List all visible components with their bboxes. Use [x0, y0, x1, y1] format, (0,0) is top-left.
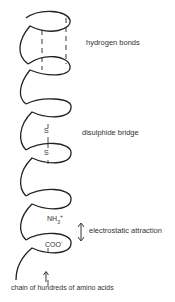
amine-group: NH3+ — [47, 213, 63, 225]
hydrogen-bonds-label: hydrogen bonds — [86, 38, 140, 47]
amine-text: NH — [47, 215, 57, 222]
amine-charge: + — [60, 213, 63, 219]
sulfur-bottom: S — [44, 149, 49, 156]
electrostatic-attraction-label: electrostatic attraction — [89, 226, 162, 235]
carboxyl-charge: - — [61, 239, 63, 245]
amine-subscript: 3 — [57, 219, 60, 225]
hydrogen-bond-lines — [42, 18, 66, 70]
carboxyl-text: COO — [45, 241, 61, 248]
carboxyl-group: COO- — [45, 239, 63, 248]
disulphide-bridge-label: disulphide bridge — [82, 128, 139, 137]
chain-label: chain of hundreds of amino acids — [11, 284, 114, 291]
double-arrow-icon — [78, 223, 84, 241]
sulfur-top: S — [44, 127, 49, 134]
